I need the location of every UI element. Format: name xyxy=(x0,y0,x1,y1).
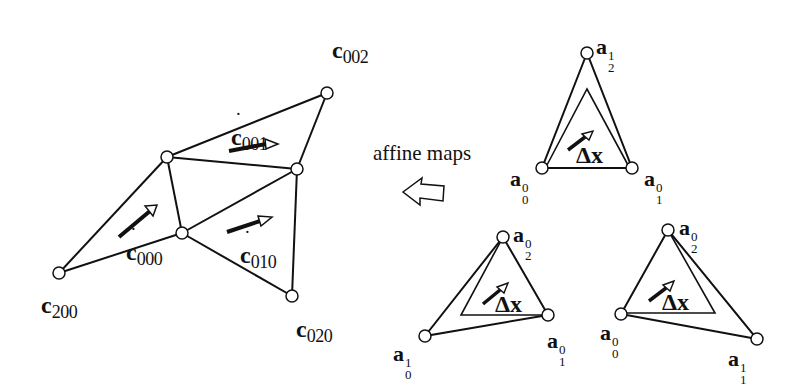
node-b xyxy=(291,163,303,175)
node-c200 xyxy=(53,267,65,279)
label-a1-top: a01 xyxy=(644,168,663,206)
label-a1-bottom-right: a11 xyxy=(728,348,747,386)
label-a0-top: a00 xyxy=(510,168,529,206)
label-a0-bottom-middle: a10 xyxy=(393,343,412,381)
label-cdot010: ˙ c010 xyxy=(240,243,276,267)
triangle-bottom-middle xyxy=(419,231,554,342)
label-a2-top: a12 xyxy=(596,36,615,74)
label-a2-bottom-middle: a02 xyxy=(513,224,532,262)
node-c000 xyxy=(176,227,188,239)
label-a2-bottom-right: a02 xyxy=(679,217,698,255)
label-a1-bottom-middle: a01 xyxy=(547,330,566,368)
label-c002: c002 xyxy=(332,38,368,62)
mesh-nodes xyxy=(53,87,333,302)
label-cdot001: ˙ c001 xyxy=(231,125,267,149)
label-a0-bottom-right: a00 xyxy=(600,322,619,360)
node-c002 xyxy=(321,87,333,99)
arrow-icon xyxy=(119,205,157,237)
label-c200: c200 xyxy=(41,293,77,317)
label-cdot000: ˙ c000 xyxy=(126,240,162,264)
delta-x-bottom-middle: Δx xyxy=(495,292,522,316)
node-c020 xyxy=(286,290,298,302)
label-c020: c020 xyxy=(296,317,332,341)
delta-x-top: Δx xyxy=(576,143,603,167)
delta-x-bottom-right: Δx xyxy=(662,290,689,314)
control-mesh xyxy=(59,93,327,296)
diagram-canvas xyxy=(0,0,801,387)
affine-maps-caption: affine maps xyxy=(373,143,471,164)
node-a xyxy=(161,151,173,163)
affine-map-arrow-icon xyxy=(403,178,444,205)
